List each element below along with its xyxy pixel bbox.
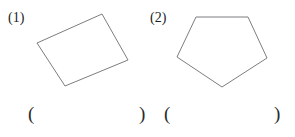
answer-blank-1[interactable]: ( ) <box>0 101 147 127</box>
problem-item-1: (1) ( ) <box>0 0 147 137</box>
geometry-worksheet: (1) ( ) (2) ( ) <box>0 0 295 137</box>
open-paren-icon-1: ( <box>28 101 34 127</box>
open-paren-icon-2: ( <box>164 101 170 127</box>
problem-item-2: (2) ( ) <box>147 0 294 137</box>
pentagon-figure <box>147 0 294 100</box>
close-paren-icon-1: ) <box>139 101 145 127</box>
quadrilateral-shape <box>37 14 128 86</box>
answer-blank-2[interactable]: ( ) <box>147 101 295 127</box>
quadrilateral-figure <box>0 0 147 100</box>
close-paren-icon-2: ) <box>274 101 280 127</box>
pentagon-shape <box>177 17 267 87</box>
